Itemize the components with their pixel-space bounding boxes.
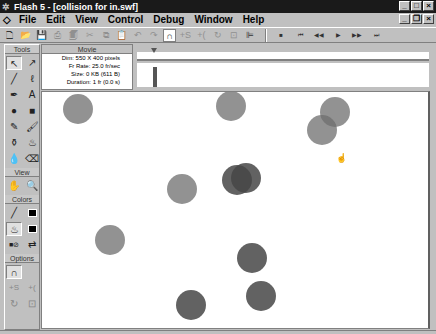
movie-stage[interactable]: ☝: [41, 91, 430, 329]
smooth-option-icon[interactable]: +S: [6, 281, 22, 295]
ball-sprite[interactable]: [237, 243, 267, 273]
default-colors-icon[interactable]: ■⊘: [6, 238, 22, 252]
playhead-icon[interactable]: [151, 48, 157, 53]
rotate-icon[interactable]: ↻: [211, 29, 224, 42]
window-title: Flash 5 - [collision for in.swf]: [14, 2, 138, 12]
align-icon[interactable]: ⊫: [243, 29, 256, 42]
duration-text: Duration: 1 fr (0.0 s): [42, 78, 132, 86]
new-icon[interactable]: 🗋: [3, 29, 16, 42]
frame-graph[interactable]: [137, 63, 429, 87]
ball-sprite[interactable]: [307, 115, 337, 145]
doc-restore-button[interactable]: ❐: [411, 14, 422, 24]
stroke-color-swatch[interactable]: [24, 206, 40, 220]
line-tool-icon[interactable]: ╱: [6, 72, 22, 86]
subselect-tool-icon[interactable]: ↗: [24, 56, 40, 70]
cut-icon[interactable]: ✂: [83, 29, 96, 42]
fill-color-icon[interactable]: ♨: [6, 222, 22, 236]
ball-sprite[interactable]: [231, 163, 261, 193]
swap-colors-icon[interactable]: ⇄: [24, 238, 40, 252]
tools-header: Tools: [5, 45, 39, 54]
ball-sprite[interactable]: [167, 174, 197, 204]
hand-cursor-icon: ☝: [336, 153, 347, 163]
ball-sprite[interactable]: [63, 94, 93, 124]
stroke-color-icon[interactable]: ╱: [6, 206, 22, 220]
menu-view[interactable]: View: [75, 14, 98, 25]
undo-icon[interactable]: ↶: [131, 29, 144, 42]
snap-option-icon[interactable]: ∩: [6, 265, 22, 279]
menu-file[interactable]: File: [19, 14, 36, 25]
maximize-button[interactable]: □: [411, 1, 422, 11]
rewind-icon[interactable]: ⏮: [292, 29, 308, 42]
zoom-tool-icon[interactable]: 🔍: [24, 179, 40, 193]
rotate-option-icon[interactable]: ↻: [6, 297, 22, 311]
menu-debug[interactable]: Debug: [153, 14, 184, 25]
menu-help[interactable]: Help: [243, 14, 265, 25]
step-forward-icon[interactable]: ▶▶: [349, 29, 365, 42]
tools-panel: Tools ↖↗╱ℓ✒A●■✎🖌⚱♨💧⌫ View ✋🔍 Colors ╱ ♨ …: [4, 44, 40, 330]
print-icon[interactable]: ⎙: [51, 29, 64, 42]
lasso-tool-icon[interactable]: ℓ: [24, 72, 40, 86]
oval-tool-icon[interactable]: ●: [6, 104, 22, 118]
ball-sprite[interactable]: [246, 281, 276, 311]
colors-header: Colors: [5, 195, 39, 204]
print-preview-icon[interactable]: 🗐: [67, 29, 80, 42]
document-menu-icon[interactable]: ◇: [3, 14, 11, 25]
doc-close-button[interactable]: ×: [423, 14, 434, 24]
open-icon[interactable]: 📂: [19, 29, 32, 42]
size-text: Size: 0 KB (611 B): [42, 70, 132, 78]
menu-bar: ◇ File Edit View Control Debug Window He…: [0, 13, 436, 26]
paint-bucket-tool-icon[interactable]: ♨: [24, 136, 40, 150]
paste-icon[interactable]: 📋: [115, 29, 128, 42]
close-button[interactable]: ×: [423, 1, 434, 11]
bandwidth-profiler-timeline: [134, 44, 432, 90]
save-icon[interactable]: 💾: [35, 29, 48, 42]
go-to-end-icon[interactable]: ⏭: [368, 29, 384, 42]
status-edge: [0, 330, 436, 334]
frame-bar: [153, 67, 157, 87]
toolbar-separator: [265, 29, 267, 42]
title-bar: ✲ Flash 5 - [collision for in.swf] _ □ ×: [0, 0, 436, 13]
step-back-icon[interactable]: ◀◀: [311, 29, 327, 42]
frame-rate-text: Fr Rate: 25.0 fr/sec: [42, 62, 132, 70]
scale-option-icon[interactable]: ⊡: [24, 297, 40, 311]
fill-color-swatch[interactable]: [24, 222, 40, 236]
menu-edit[interactable]: Edit: [46, 14, 65, 25]
pen-tool-icon[interactable]: ✒: [6, 88, 22, 102]
ball-sprite[interactable]: [216, 91, 246, 121]
straighten-option-icon[interactable]: +(: [24, 281, 40, 295]
menu-control[interactable]: Control: [108, 14, 144, 25]
text-tool-icon[interactable]: A: [24, 88, 40, 102]
straighten-icon[interactable]: +(: [195, 29, 208, 42]
smooth-icon[interactable]: +S: [179, 29, 192, 42]
play-icon[interactable]: ▶: [330, 29, 346, 42]
menu-window[interactable]: Window: [194, 14, 232, 25]
eraser-tool-icon[interactable]: ⌫: [24, 152, 40, 166]
scale-icon[interactable]: ⊡: [227, 29, 240, 42]
movie-info-panel: Movie Dim: 550 X 400 pixels Fr Rate: 25.…: [41, 44, 133, 90]
pencil-tool-icon[interactable]: ✎: [6, 120, 22, 134]
snap-magnet-icon[interactable]: ∩: [163, 29, 176, 42]
brush-tool-icon[interactable]: 🖌: [24, 120, 40, 134]
ball-sprite[interactable]: [95, 225, 125, 255]
view-header: View: [5, 168, 39, 177]
flash-app-icon[interactable]: ✲: [2, 2, 12, 12]
redo-icon[interactable]: ↷: [147, 29, 160, 42]
copy-icon[interactable]: ⧉: [99, 29, 112, 42]
hand-tool-icon[interactable]: ✋: [6, 179, 22, 193]
frame-ruler[interactable]: [137, 52, 429, 61]
dimensions-text: Dim: 550 X 400 pixels: [42, 54, 132, 62]
ink-bottle-tool-icon[interactable]: ⚱: [6, 136, 22, 150]
ball-sprite[interactable]: [176, 290, 206, 320]
minimize-button[interactable]: _: [399, 1, 410, 11]
arrow-tool-icon[interactable]: ↖: [6, 56, 22, 70]
eyedropper-tool-icon[interactable]: 💧: [6, 152, 22, 166]
rectangle-tool-icon[interactable]: ■: [24, 104, 40, 118]
options-header: Options: [5, 254, 39, 263]
main-toolbar: 🗋📂💾⎙🗐✂⧉📋↶↷∩+S+(↻⊡⊫■⏮◀◀▶▶▶⏭: [0, 27, 436, 43]
movie-info-header: Movie: [42, 45, 132, 54]
stop-icon[interactable]: ■: [273, 29, 289, 42]
doc-minimize-button[interactable]: _: [399, 14, 410, 24]
